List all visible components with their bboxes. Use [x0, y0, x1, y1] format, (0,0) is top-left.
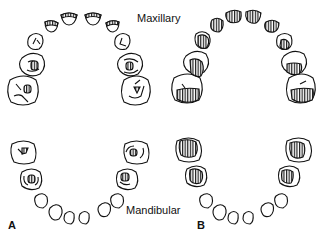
tooth-canine — [28, 34, 43, 50]
tooth-incisor — [64, 212, 74, 225]
tooth-canine — [213, 205, 226, 220]
tooth-canine — [115, 34, 130, 50]
tooth-incisor — [228, 212, 238, 225]
tooth-incisor — [243, 212, 253, 225]
panel-b-label: B — [197, 219, 205, 231]
tooth-molar — [8, 76, 39, 105]
maxillary-label: Maxillary — [137, 12, 180, 24]
tooth-canine — [261, 203, 274, 217]
tooth-canine — [98, 203, 111, 217]
dental-arch-diagram — [0, 0, 325, 236]
panel-a-maxillary-arch — [8, 13, 151, 105]
tooth-canine — [49, 205, 62, 220]
tooth-lateral-incisor — [211, 18, 224, 32]
tooth-lateral-incisor — [265, 20, 279, 32]
tooth-premolar-small — [111, 194, 124, 208]
tooth-incisor — [226, 10, 241, 23]
tooth-premolar-small — [35, 194, 48, 208]
panel-a-label: A — [8, 219, 16, 231]
tooth-premolar-small — [275, 194, 288, 208]
tooth-incisor — [79, 212, 89, 225]
panel-b-mandibular-arch — [176, 138, 312, 224]
mandibular-label: Mandibular — [126, 204, 180, 216]
tooth-premolar-small — [200, 194, 213, 208]
panel-b-maxillary-arch — [172, 10, 316, 103]
tooth-incisor — [246, 10, 261, 23]
